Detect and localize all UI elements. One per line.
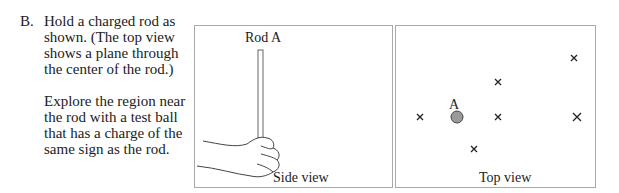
hand-icon xyxy=(197,137,279,177)
rod-and-hand-illustration xyxy=(195,26,394,189)
side-view-panel: Rod A Side view xyxy=(194,25,393,188)
top-view-panel: A Top view xyxy=(395,25,596,188)
ball-label: A xyxy=(449,97,459,112)
side-view-caption: Side view xyxy=(273,170,329,185)
instruction-paragraph-1: Hold a charged rod as shown. (The top vi… xyxy=(44,13,194,77)
probe-marker-icons xyxy=(417,55,581,152)
top-view-diagram xyxy=(396,26,597,189)
top-view-caption: Top view xyxy=(479,170,531,185)
rod-label: Rod A xyxy=(245,30,281,45)
rod-icon xyxy=(258,50,263,138)
section-letter: B. xyxy=(20,13,34,29)
charged-ball-icon xyxy=(451,111,463,123)
instruction-paragraph-2: Explore the region near the rod with a t… xyxy=(44,93,194,157)
